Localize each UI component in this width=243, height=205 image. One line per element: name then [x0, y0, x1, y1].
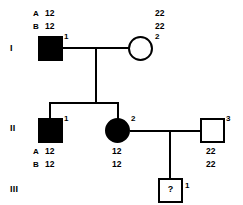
individual-II-1-symbol[interactable]	[38, 118, 63, 143]
gen2-male3-allele-a-value: 22	[206, 147, 215, 156]
sibline-to-II-1	[49, 102, 51, 119]
generation-label-one: I	[10, 44, 13, 53]
generation-label-two: II	[10, 124, 16, 133]
gen1-male-allele-b-value: 12	[45, 22, 54, 31]
gen2-male1-allele-b-value: 12	[45, 160, 54, 169]
sibship-bar-gen2	[49, 102, 119, 104]
gen1-male-allele-a-value: 12	[45, 9, 54, 18]
gen2-female2-allele-a-value: 12	[112, 147, 121, 156]
individual-II-3-symbol[interactable]	[200, 118, 225, 143]
gen2-male3-allele-b-value: 22	[206, 160, 215, 169]
individual-III-1-number: 1	[185, 182, 189, 190]
gen1-female-allele-b-value: 22	[155, 22, 164, 31]
individual-I-2-symbol[interactable]	[128, 36, 153, 61]
descent-line-gen2	[169, 130, 171, 178]
individual-II-2-number: 2	[131, 115, 135, 123]
gen1-female-allele-a-value: 22	[155, 9, 164, 18]
individual-II-2-symbol[interactable]	[105, 118, 130, 143]
gen2-male1-allele-a-value: 12	[45, 147, 54, 156]
individual-I-1-number: 1	[64, 33, 68, 41]
gen1-male-locus-a-label: A	[33, 10, 39, 18]
gen1-male-locus-b-label: B	[33, 23, 39, 31]
individual-I-1-symbol[interactable]	[38, 36, 63, 61]
gen2-female2-allele-b-value: 12	[112, 160, 121, 169]
pedigree-chart: A 12 B 12 22 22 I 1 2 II 1 2 3 A 12 B 12…	[0, 0, 243, 205]
generation-label-three: III	[10, 185, 18, 194]
gen2-male1-locus-a-label: A	[33, 148, 39, 156]
descent-line-gen1	[95, 47, 97, 103]
individual-III-1-unknown-marker: ?	[158, 185, 183, 194]
mating-line-gen2	[130, 130, 200, 132]
individual-II-1-number: 1	[64, 115, 68, 123]
gen2-male1-locus-b-label: B	[33, 161, 39, 169]
sibline-to-II-2	[117, 102, 119, 119]
individual-I-2-number: 2	[155, 33, 159, 41]
individual-II-3-number: 3	[226, 115, 230, 123]
